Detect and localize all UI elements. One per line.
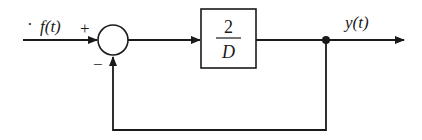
input-dot-mark: · — [27, 15, 33, 34]
block-diagram: · f(t) + − 2 D y(t) — [0, 0, 422, 140]
block-numerator: 2 — [224, 17, 233, 37]
summing-junction — [98, 25, 128, 55]
plus-sign: + — [80, 19, 90, 38]
minus-sign: − — [93, 55, 103, 74]
input-label: f(t) — [40, 17, 61, 36]
output-label: y(t) — [343, 13, 369, 32]
feedback-path — [113, 40, 326, 130]
block-denominator: D — [221, 42, 235, 62]
